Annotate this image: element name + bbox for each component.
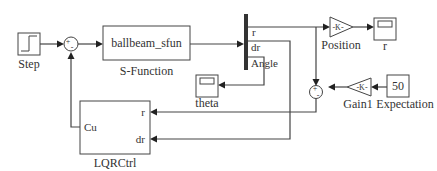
simulink-diagram: Step + - ballbeam_sfun S-Function r dr A… — [0, 0, 437, 171]
lqr-port-cu: Cu — [84, 121, 97, 133]
lqr-label: LQRCtrl — [94, 156, 137, 170]
sum2-block[interactable]: + - — [310, 84, 323, 100]
sum2-minus: - — [317, 91, 320, 100]
bus-port-angle: Angle — [251, 57, 278, 69]
position-label: Position — [321, 38, 360, 52]
wire-sum2-lqr — [156, 98, 316, 112]
gain1-block[interactable]: -K- Gain1 — [343, 78, 372, 111]
lqr-port-r: r — [141, 106, 145, 118]
scope-r-block[interactable]: r — [374, 18, 396, 53]
sfun-name: ballbeam_sfun — [111, 36, 182, 50]
step-block[interactable]: Step — [18, 33, 40, 71]
gain-k-icon: -K- — [332, 23, 343, 32]
sfun-label: S-Function — [120, 64, 173, 78]
expectation-value: 50 — [392, 79, 404, 93]
sum1-minus: - — [71, 43, 74, 52]
lqrctrl-block[interactable]: Cu r dr LQRCtrl — [80, 101, 150, 170]
bus-selector-block[interactable]: r dr Angle — [244, 14, 278, 70]
expectation-block[interactable]: 50 Expectation — [376, 75, 433, 111]
bus-port-dr: dr — [251, 41, 261, 53]
step-label: Step — [18, 57, 39, 71]
wire-lqr-sum1 — [71, 58, 80, 127]
gain1-label: Gain1 — [343, 97, 372, 111]
gain-k-icon: -K- — [356, 83, 367, 92]
scope-r-label: r — [383, 39, 387, 53]
theta-label: theta — [195, 96, 219, 110]
expectation-label: Expectation — [376, 97, 433, 111]
sfun-block[interactable]: ballbeam_sfun S-Function — [103, 26, 190, 78]
position-gain-block[interactable]: -K- Position — [321, 17, 360, 52]
bus-port-r: r — [252, 26, 256, 38]
lqr-port-dr: dr — [136, 133, 146, 145]
sum1-block[interactable]: + - — [64, 37, 78, 52]
scope-theta-block[interactable]: theta — [195, 75, 219, 110]
